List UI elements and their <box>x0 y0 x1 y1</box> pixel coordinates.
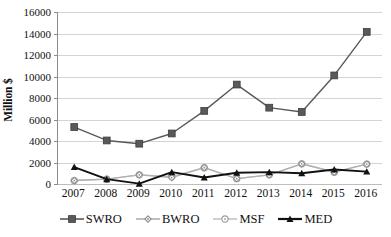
data-point-filled-square <box>201 108 208 115</box>
y-axis-tick-label: 4000 <box>13 136 51 147</box>
y-axis-tick-label: 12000 <box>13 50 51 61</box>
y-axis-tick-labels: 0200040006000800010000120001400016000 <box>16 12 54 184</box>
chart-legend: SWROBWROMSFMED <box>0 208 391 230</box>
legend-item-swro[interactable]: SWRO <box>59 213 122 226</box>
series-med <box>71 164 371 187</box>
data-point-filled-square <box>298 109 305 116</box>
legend-item-msf[interactable]: MSF <box>212 213 264 226</box>
x-axis-tick-labels: 2007200820092010201120122013201420152016 <box>57 186 382 202</box>
data-point-open-diamond <box>145 216 151 222</box>
legend-marker-filled-square-icon <box>59 213 85 225</box>
y-axis-tick-label: 10000 <box>13 71 51 82</box>
y-axis-tick-label: 16000 <box>13 7 51 18</box>
data-point-open-circle <box>222 216 228 222</box>
data-point-filled-square <box>71 124 78 131</box>
series-swro <box>71 28 370 147</box>
data-point-filled-square <box>68 216 75 223</box>
y-axis-tick-label: 2000 <box>13 157 51 168</box>
data-point-filled-square <box>103 137 110 144</box>
y-axis-tickmark <box>54 184 58 185</box>
legend-item-med[interactable]: MED <box>277 213 332 226</box>
y-axis-tick-label: 14000 <box>13 28 51 39</box>
legend-label: BWRO <box>162 213 200 226</box>
legend-label: MED <box>304 213 332 226</box>
data-point-filled-square <box>136 140 143 147</box>
y-axis-tick-label: 0 <box>13 179 51 190</box>
y-axis-tick-label: 8000 <box>13 93 51 104</box>
legend-label: MSF <box>239 213 264 226</box>
data-point-filled-square <box>233 81 240 88</box>
data-point-filled-square <box>363 28 370 35</box>
y-axis-tick-label: 6000 <box>13 114 51 125</box>
gridline <box>58 184 382 185</box>
x-axis-tick-label: 2016 <box>343 186 389 200</box>
series-line <box>74 32 367 144</box>
series-layer <box>58 12 383 184</box>
data-point-filled-triangle <box>71 164 78 170</box>
legend-marker-open-diamond-icon <box>135 213 161 225</box>
line-chart: Million $ 020004000600080001000012000140… <box>0 0 391 237</box>
data-point-filled-square <box>331 72 338 79</box>
series-line <box>74 164 367 181</box>
legend-item-bwro[interactable]: BWRO <box>135 213 200 226</box>
plot-area <box>57 12 382 184</box>
legend-marker-filled-triangle-icon <box>277 213 303 225</box>
legend-label: SWRO <box>86 213 122 226</box>
legend-marker-open-circle-icon <box>212 213 238 225</box>
data-point-filled-square <box>168 130 175 137</box>
data-point-filled-square <box>266 104 273 111</box>
